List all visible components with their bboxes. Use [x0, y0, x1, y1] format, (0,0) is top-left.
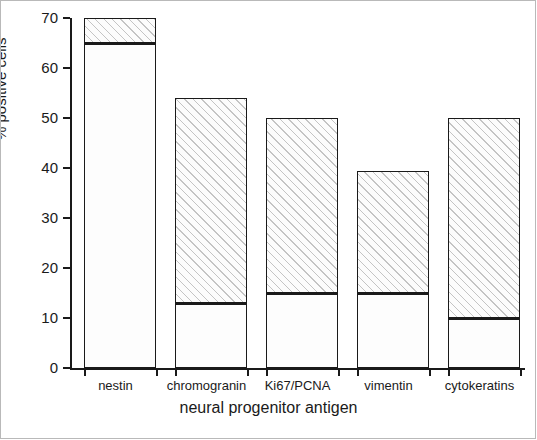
bar-group [70, 18, 525, 368]
bar-nestin [84, 18, 156, 368]
y-tick-label: 70 [41, 10, 58, 25]
x-tick-label-group: nestinchromograninKi67/PCNAvimentincytok… [70, 378, 525, 398]
y-tick-label: 60 [41, 60, 58, 75]
bar-cytokeratins [448, 118, 520, 368]
y-tick-mark [63, 317, 70, 319]
x-tick-mark [448, 368, 450, 376]
bar-chart: 010203040506070 % positive cells nestinc… [0, 0, 537, 440]
bar-segment-upper [266, 118, 338, 293]
bar-segment-upper [175, 98, 247, 303]
y-tick-label: 0 [50, 360, 58, 375]
bar-segment-upper [448, 118, 520, 318]
bar-chromogranin [175, 98, 247, 368]
y-tick-label: 50 [41, 110, 58, 125]
x-tick-label: cytokeratins [434, 378, 525, 393]
x-tick-mark [338, 368, 340, 376]
bar-segment-upper [84, 18, 156, 43]
y-tick-label: 10 [41, 310, 58, 325]
bar-segment-lower [266, 293, 338, 368]
y-tick-mark [63, 217, 70, 219]
y-tick-label: 20 [41, 260, 58, 275]
y-tick-mark [63, 17, 70, 19]
x-tick-mark [156, 368, 158, 376]
y-tick-label: 30 [41, 210, 58, 225]
x-tick-mark [247, 368, 249, 376]
bar-segment-lower [448, 318, 520, 368]
bar-segment-lower [175, 303, 247, 368]
x-axis-title: neural progenitor antigen [0, 399, 537, 417]
bar-segment-upper [357, 171, 429, 294]
y-tick-mark [63, 117, 70, 119]
bar-segment-lower [357, 293, 429, 368]
bar-vimentin [357, 171, 429, 369]
y-tick-mark [63, 67, 70, 69]
x-tick-mark [175, 368, 177, 376]
y-tick-mark [63, 167, 70, 169]
x-tick-mark [429, 368, 431, 376]
x-tick-label: nestin [70, 378, 161, 393]
x-tick-mark [266, 368, 268, 376]
x-tick-label: chromogranin [161, 378, 252, 393]
x-tick-label: vimentin [343, 378, 434, 393]
x-tick-mark [357, 368, 359, 376]
y-tick-group: 010203040506070 [0, 18, 70, 370]
y-axis-title: % positive cells [0, 37, 9, 140]
bar-ki67-pcna [266, 118, 338, 368]
x-axis-line [70, 368, 525, 370]
y-tick-label: 40 [41, 160, 58, 175]
x-tick-mark [520, 368, 522, 376]
x-tick-label: Ki67/PCNA [252, 378, 343, 393]
y-tick-mark [63, 367, 70, 369]
x-tick-mark [84, 368, 86, 376]
y-tick-mark [63, 267, 70, 269]
bar-segment-lower [84, 43, 156, 368]
